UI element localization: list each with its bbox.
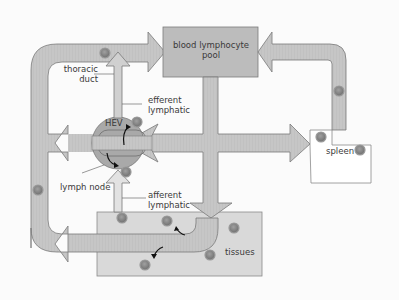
blood-pool-label-line2: pool (166, 50, 256, 60)
tissues-label: tissues (225, 247, 255, 257)
afferent-label-line1: afferent (148, 190, 190, 200)
blood-pool-label: blood lymphocyte pool (166, 40, 256, 60)
afferent-label-line2: lymphatic (148, 200, 190, 210)
thoracic-duct-label: thoracic duct (50, 64, 98, 84)
diagram-canvas: blood lymphocyte pool thoracic duct effe… (0, 0, 399, 300)
blood-pool-label-line1: blood lymphocyte (166, 40, 256, 50)
efferent-lymphatic-arrow (106, 52, 130, 118)
spleen-return-band (258, 32, 346, 130)
afferent-lymphatic-label: afferent lymphatic (148, 190, 190, 210)
lymph-node-pointer (82, 165, 104, 173)
thoracic-label-line1: thoracic (50, 64, 98, 74)
efferent-label-line1: efferent (148, 95, 190, 105)
thoracic-label-line2: duct (50, 74, 98, 84)
efferent-lymphatic-label: efferent lymphatic (148, 95, 190, 115)
spleen-label: spleen (326, 146, 354, 156)
efferent-label-line2: lymphatic (148, 105, 190, 115)
lymph-node-label: lymph node (60, 182, 110, 192)
hev-label: HEV (105, 118, 123, 128)
